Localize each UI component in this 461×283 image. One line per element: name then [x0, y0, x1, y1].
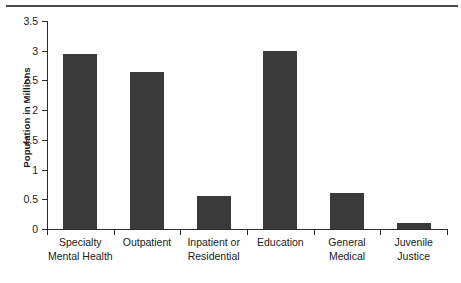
y-tick-label: 0 [0, 223, 38, 235]
x-category-label-line: Education [247, 236, 314, 250]
x-category-label-line: Medical [314, 250, 381, 264]
bar-chart-figure: Population in Millions 00.511.522.533.5 … [0, 0, 461, 283]
x-category-label: SpecialtyMental Health [47, 236, 114, 263]
y-tick-label: 2.5 [0, 74, 38, 86]
bar [197, 196, 231, 229]
x-category-label-line: Residential [180, 250, 247, 264]
y-tick-label: 0.5 [0, 193, 38, 205]
y-tick-label: 1 [0, 164, 38, 176]
x-category-label-line: Mental Health [47, 250, 114, 264]
x-tick-mark [380, 230, 381, 235]
y-tick-label: 1.5 [0, 134, 38, 146]
x-category-label: Education [247, 236, 314, 250]
x-tick-mark [447, 230, 448, 235]
x-tick-mark [314, 230, 315, 235]
bar [63, 54, 97, 229]
x-category-label: Outpatient [114, 236, 181, 250]
x-category-label-line: General [314, 236, 381, 250]
bar [263, 51, 297, 229]
x-category-label: GeneralMedical [314, 236, 381, 263]
bar [397, 223, 431, 229]
x-tick-mark [180, 230, 181, 235]
bars-container [47, 21, 448, 229]
x-category-label: Inpatient orResidential [180, 236, 247, 263]
x-category-label-line: Outpatient [114, 236, 181, 250]
x-tick-mark [114, 230, 115, 235]
x-tick-mark [247, 230, 248, 235]
bar [330, 193, 364, 229]
x-category-label-line: Specialty [47, 236, 114, 250]
bar [130, 72, 164, 229]
x-category-label-line: Justice [380, 250, 447, 264]
y-tick-label: 2 [0, 104, 38, 116]
x-category-label-line: Inpatient or [180, 236, 247, 250]
y-tick-label: 3 [0, 45, 38, 57]
y-tick-label: 3.5 [0, 15, 38, 27]
x-tick-mark [47, 230, 48, 235]
x-category-label: JuvenileJustice [380, 236, 447, 263]
x-category-label-line: Juvenile [380, 236, 447, 250]
top-rule-divider [6, 5, 458, 7]
